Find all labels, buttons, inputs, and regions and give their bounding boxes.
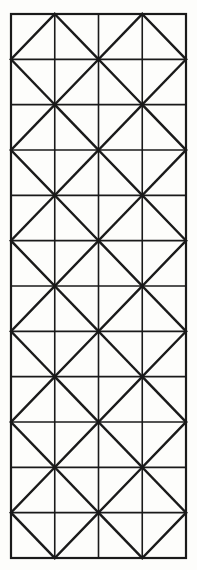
diagram-canvas xyxy=(0,0,197,570)
diagonal-back-r11-c0 xyxy=(11,513,55,558)
diagonal-grid-pattern xyxy=(0,0,197,570)
diagonal-back-r6-c3 xyxy=(142,286,186,331)
diagonal-forward-r7-c3 xyxy=(142,331,186,376)
diagonal-back-r10-c1 xyxy=(55,467,99,512)
diagonal-forward-r5-c1 xyxy=(55,241,99,286)
diagonal-back-r8-c1 xyxy=(55,377,99,422)
diagonal-forward-r10-c0 xyxy=(11,467,55,512)
diagonal-forward-r11-c3 xyxy=(142,513,186,558)
diagonal-back-r3-c2 xyxy=(99,150,143,195)
diagonal-forward-r4-c0 xyxy=(11,195,55,240)
diagonal-back-r2-c1 xyxy=(55,105,99,150)
diagonal-forward-r3-c1 xyxy=(55,150,99,195)
diagonal-back-r6-c1 xyxy=(55,286,99,331)
diagonal-back-r2-c3 xyxy=(142,105,186,150)
diagonal-forward-r9-c3 xyxy=(142,422,186,467)
diagonal-back-r1-c2 xyxy=(99,59,143,104)
diagonal-forward-r4-c2 xyxy=(99,195,143,240)
diagonal-back-r1-c0 xyxy=(11,59,55,104)
diagonal-forward-r9-c1 xyxy=(55,422,99,467)
diagonal-back-r7-c0 xyxy=(11,331,55,376)
diagonal-back-r11-c2 xyxy=(99,513,143,558)
diagonal-forward-r8-c0 xyxy=(11,377,55,422)
diagonal-forward-r3-c3 xyxy=(142,150,186,195)
diagonal-back-r4-c3 xyxy=(142,195,186,240)
diagonal-forward-r7-c1 xyxy=(55,331,99,376)
diagonal-forward-r10-c2 xyxy=(99,467,143,512)
diagonal-back-r0-c3 xyxy=(142,14,186,59)
diagonal-forward-r8-c2 xyxy=(99,377,143,422)
diagonal-forward-r6-c2 xyxy=(99,286,143,331)
diagonal-forward-r0-c0 xyxy=(11,14,55,59)
diagonal-back-r4-c1 xyxy=(55,195,99,240)
diagonal-forward-r2-c0 xyxy=(11,105,55,150)
diagonal-forward-r1-c3 xyxy=(142,59,186,104)
diagonal-back-r3-c0 xyxy=(11,150,55,195)
diagonal-back-r9-c0 xyxy=(11,422,55,467)
diagonal-forward-r11-c1 xyxy=(55,513,99,558)
diagonal-forward-r5-c3 xyxy=(142,241,186,286)
diagonal-forward-r0-c2 xyxy=(99,14,143,59)
diagonal-back-r5-c2 xyxy=(99,241,143,286)
diagonal-back-r8-c3 xyxy=(142,377,186,422)
diagonal-forward-r1-c1 xyxy=(55,59,99,104)
diagonal-back-r7-c2 xyxy=(99,331,143,376)
diagonal-back-r0-c1 xyxy=(55,14,99,59)
grid-lines-group xyxy=(11,14,186,558)
diagonal-back-r10-c3 xyxy=(142,467,186,512)
diagonal-forward-r6-c0 xyxy=(11,286,55,331)
diagonal-forward-r2-c2 xyxy=(99,105,143,150)
diagonal-back-r5-c0 xyxy=(11,241,55,286)
diagonal-back-r9-c2 xyxy=(99,422,143,467)
